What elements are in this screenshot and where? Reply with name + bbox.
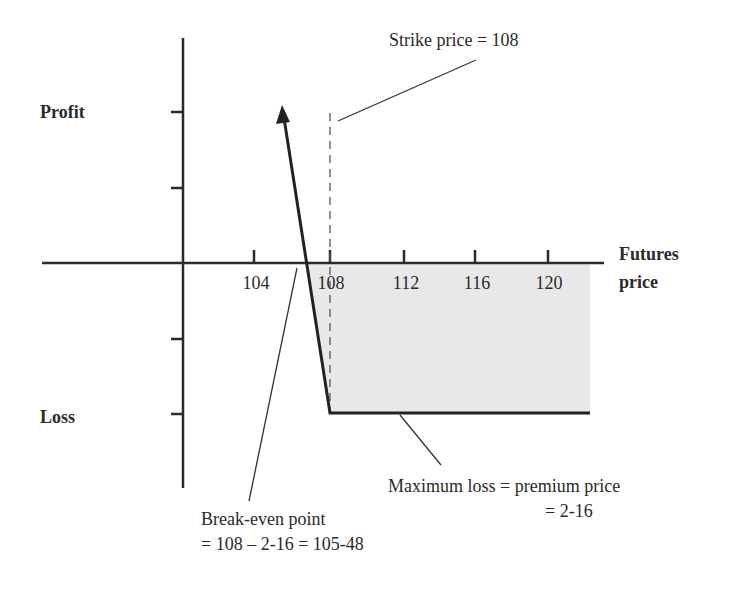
strike-leader-line	[338, 60, 476, 121]
breakeven-annotation-line1: Break-even point	[201, 508, 325, 530]
x-tick-label-104: 104	[231, 273, 281, 293]
x-axis-label-line2: price	[619, 271, 658, 293]
max-loss-annotation-line2: = 2-16	[545, 500, 593, 522]
profit-label: Profit	[40, 101, 85, 123]
payoff-diagram	[0, 0, 744, 590]
maxloss-leader-line	[400, 415, 441, 465]
x-ticks	[254, 250, 548, 263]
loss-label: Loss	[40, 406, 75, 428]
arrow-up-icon	[276, 105, 290, 124]
breakeven-leader-line	[249, 268, 297, 501]
strike-annotation: Strike price = 108	[389, 29, 519, 51]
x-tick-label-116: 116	[452, 273, 502, 293]
x-tick-label-112: 112	[381, 273, 431, 293]
x-axis-label-line1: Futures	[619, 243, 679, 265]
x-tick-label-108: 108	[306, 273, 356, 293]
max-loss-annotation-line1: Maximum loss = premium price	[388, 475, 620, 497]
x-tick-label-120: 120	[524, 273, 574, 293]
breakeven-annotation-line2: = 108 – 2-16 = 105-48	[201, 533, 364, 555]
